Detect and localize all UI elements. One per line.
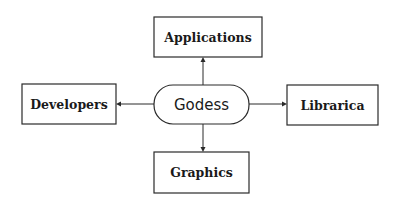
arrow-left-icon	[116, 102, 121, 107]
arrow-up-icon	[201, 57, 206, 62]
arrow-down-icon	[201, 147, 206, 152]
developers-label: Developers	[30, 97, 107, 112]
node-developers: Developers	[22, 84, 116, 124]
node-applications: Applications	[154, 17, 262, 57]
arrow-right-icon	[282, 102, 287, 107]
node-graphics: Graphics	[154, 152, 249, 193]
libraries-label: Librarica	[300, 98, 364, 113]
diagram-canvas: Applications Developers Godess Librarica…	[0, 0, 399, 209]
node-libraries: Librarica	[287, 85, 378, 125]
graphics-label: Graphics	[170, 165, 233, 180]
godess-label: Godess	[174, 96, 229, 114]
applications-label: Applications	[163, 30, 251, 45]
node-center: Godess	[154, 85, 249, 124]
